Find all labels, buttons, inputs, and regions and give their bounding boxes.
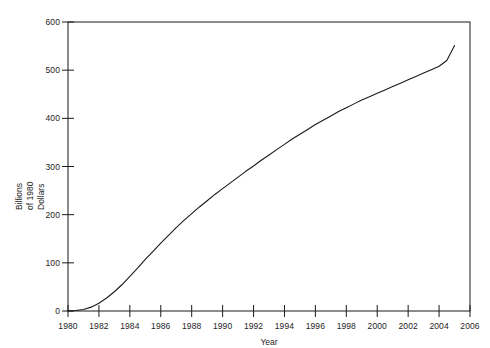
y-tick-label: 400 bbox=[28, 113, 60, 123]
y-tick-label: 100 bbox=[28, 258, 60, 268]
x-tick-label: 1990 bbox=[213, 321, 232, 331]
axis-frame bbox=[68, 22, 470, 311]
x-tick-label: 1992 bbox=[244, 321, 263, 331]
x-tick-label: 1994 bbox=[275, 321, 294, 331]
x-tick-label: 2004 bbox=[429, 321, 448, 331]
plot-canvas bbox=[0, 0, 490, 348]
y-axis-title-line-1: Billions bbox=[14, 132, 25, 210]
x-tick-label: 1984 bbox=[120, 321, 139, 331]
x-tick-label: 1986 bbox=[151, 321, 170, 331]
y-tick-label: 0 bbox=[28, 306, 60, 316]
y-axis-title-line-3: Dollars bbox=[36, 132, 47, 210]
x-tick-label: 1980 bbox=[58, 321, 77, 331]
y-tick-label: 200 bbox=[28, 210, 60, 220]
data-line-series-0 bbox=[68, 46, 455, 311]
x-tick-label: 1982 bbox=[89, 321, 108, 331]
x-tick-label: 1998 bbox=[337, 321, 356, 331]
x-tick-label: 2006 bbox=[460, 321, 479, 331]
x-axis-title: Year bbox=[260, 337, 277, 347]
y-tick-label: 600 bbox=[28, 17, 60, 27]
y-axis-title-line-2: of 1980 bbox=[25, 132, 36, 210]
y-tick-label: 500 bbox=[28, 65, 60, 75]
x-tick-label: 1988 bbox=[182, 321, 201, 331]
chart-figure: 0100200300400500600 19801982198419861988… bbox=[0, 0, 490, 348]
plot-border bbox=[68, 22, 470, 311]
x-tick-label: 2002 bbox=[398, 321, 417, 331]
x-tick-label: 2000 bbox=[368, 321, 387, 331]
y-axis-title: Billions of 1980 Dollars bbox=[14, 132, 48, 210]
x-tick-label: 1996 bbox=[306, 321, 325, 331]
